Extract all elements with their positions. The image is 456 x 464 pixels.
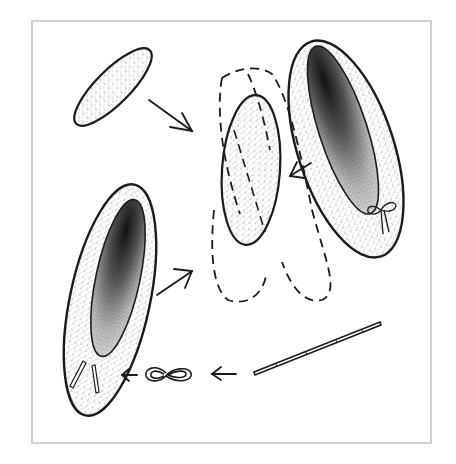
elastic-loop-icon xyxy=(146,368,191,381)
assembly-sole xyxy=(217,93,285,247)
illustration-canvas xyxy=(0,0,456,464)
arrow-strip-to-loop-icon xyxy=(212,367,236,380)
arrow-insole-to-assembly-icon xyxy=(149,100,192,131)
finished-slipper-right xyxy=(265,27,426,272)
insole xyxy=(64,38,162,136)
slipper-assembly-diagram xyxy=(0,0,456,464)
arrow-left-slipper-to-assembly-icon xyxy=(157,269,192,295)
finished-slipper-left xyxy=(46,176,173,423)
elastic-strip xyxy=(254,322,381,375)
